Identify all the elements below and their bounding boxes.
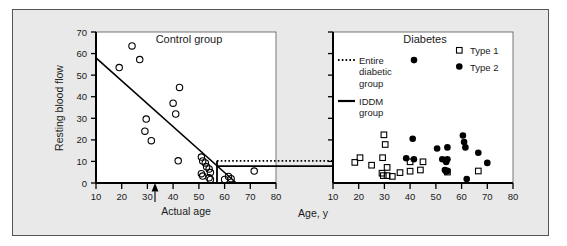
right-panel: 10 20 30 40 50 60 70 80 Diabetes xyxy=(298,32,518,219)
y-tick-50: 50 xyxy=(76,70,87,81)
y-tick-20: 20 xyxy=(76,134,87,145)
x-tick-20: 20 xyxy=(116,191,127,202)
x-tick-80: 80 xyxy=(508,191,519,202)
figure-root: 70 60 50 40 30 20 10 0 xyxy=(0,0,567,246)
left-y-axis-title: Resting blood flow xyxy=(53,65,65,151)
y-tick-0: 0 xyxy=(82,178,87,189)
figure-panel: 70 60 50 40 30 20 10 0 xyxy=(12,9,549,236)
x-tick-10: 10 xyxy=(91,191,102,202)
x-tick-40: 40 xyxy=(405,191,416,202)
y-tick-30: 30 xyxy=(76,113,87,124)
legend-entire-line2: diabetic xyxy=(359,66,392,77)
x-tick-50: 50 xyxy=(431,191,442,202)
right-x-axis-title: Age, y xyxy=(298,207,329,219)
data-point xyxy=(460,132,467,139)
left-panel: 70 60 50 40 30 20 10 0 xyxy=(53,27,281,218)
x-tick-60: 60 xyxy=(456,191,467,202)
left-y-tick-labels: 70 60 50 40 30 20 10 0 xyxy=(76,27,87,189)
data-point xyxy=(411,57,418,64)
actual-age-arrow-marker xyxy=(152,183,159,192)
legend-iddm-line2: group xyxy=(359,107,383,118)
legend-type2-swatch xyxy=(456,63,463,70)
data-point xyxy=(484,160,491,167)
x-tick-70: 70 xyxy=(245,191,256,202)
legend-iddm-line1: IDDM xyxy=(359,96,383,107)
data-point xyxy=(403,155,410,162)
left-x-tick-labels: 10 20 30 40 50 60 70 80 xyxy=(91,191,282,202)
right-panel-title: Diabetes xyxy=(403,33,447,45)
y-tick-60: 60 xyxy=(76,48,87,59)
data-point xyxy=(409,136,416,143)
right-x-tick-labels: 10 20 30 40 50 60 70 80 xyxy=(328,191,519,202)
data-point xyxy=(462,144,469,151)
data-point xyxy=(444,168,451,175)
legend-type1-label: Type 1 xyxy=(470,45,499,56)
legend-type2-label: Type 2 xyxy=(470,62,499,73)
data-point xyxy=(475,150,482,157)
data-point xyxy=(434,145,441,152)
x-tick-20: 20 xyxy=(353,191,364,202)
legend-entire-line1: Entire xyxy=(359,55,384,66)
legend-entire-line3: group xyxy=(359,78,383,89)
x-tick-30: 30 xyxy=(142,191,153,202)
x-tick-70: 70 xyxy=(482,191,493,202)
left-panel-title: Control group xyxy=(156,33,223,45)
data-point xyxy=(444,144,451,151)
data-point xyxy=(411,156,418,163)
data-point xyxy=(463,176,470,183)
x-tick-10: 10 xyxy=(328,191,339,202)
x-tick-60: 60 xyxy=(219,191,230,202)
left-x-axis-title: Actual age xyxy=(161,205,211,217)
x-tick-50: 50 xyxy=(194,191,205,202)
y-tick-10: 10 xyxy=(76,156,87,167)
data-point xyxy=(443,159,450,166)
x-tick-80: 80 xyxy=(271,191,282,202)
y-tick-70: 70 xyxy=(76,27,87,38)
chart-svg: 70 60 50 40 30 20 10 0 xyxy=(13,10,548,235)
x-tick-30: 30 xyxy=(379,191,390,202)
x-tick-40: 40 xyxy=(168,191,179,202)
y-tick-40: 40 xyxy=(76,91,87,102)
